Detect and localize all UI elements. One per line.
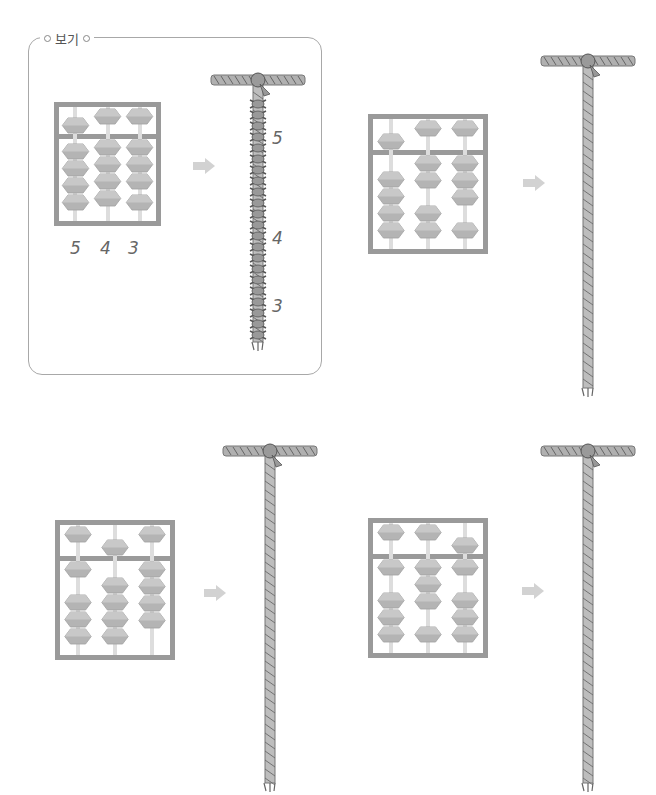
abacus-lower-bead [63,561,93,578]
abacus-lower-bead [450,592,480,609]
abacus-lower-bead [137,595,167,612]
abacus-lower-bead [413,205,443,222]
problem-2-rope[interactable] [222,443,318,795]
abacus-lower-bead [61,177,90,194]
abacus-upper-bead [450,120,480,137]
digit-label: 4 [100,238,111,258]
abacus-lower-bead [413,626,443,643]
problem-1-rope[interactable] [540,53,636,402]
abacus-upper-bead [63,526,93,543]
rope-label: 4 [272,228,283,248]
abacus-lower-bead [450,172,480,189]
abacus-lower-bead [376,626,406,643]
abacus-upper-bead [413,524,443,541]
abacus-lower-bead [450,155,480,172]
abacus-lower-bead [450,189,480,206]
abacus-lower-bead [93,139,122,156]
abacus-lower-bead [376,222,406,239]
abacus-upper-bead [100,539,130,556]
abacus-lower-bead [93,190,122,207]
abacus-lower-bead [125,139,154,156]
abacus-lower-bead [100,577,130,594]
abacus-upper-bead [450,537,480,554]
abacus-lower-bead [93,173,122,190]
problem-1-abacus [368,114,488,254]
ring-icon [44,35,51,42]
abacus-lower-bead [450,609,480,626]
example-box-label: 보기 [40,29,94,48]
abacus-lower-bead [376,592,406,609]
abacus-lower-bead [376,559,406,576]
abacus-lower-bead [376,205,406,222]
abacus-lower-bead [125,194,154,211]
abacus-upper-bead [61,117,90,134]
abacus-lower-bead [376,609,406,626]
abacus-lower-bead [413,172,443,189]
abacus-lower-bead [100,611,130,628]
abacus-upper-bead [93,108,122,125]
abacus-upper-bead [376,133,406,150]
abacus-lower-bead [376,188,406,205]
problem-3-abacus [368,518,488,658]
abacus-lower-bead [100,628,130,645]
abacus-lower-bead [450,222,480,239]
abacus-lower-bead [100,594,130,611]
knotted-rope-example [210,72,306,356]
abacus-lower-bead [93,156,122,173]
abacus-lower-bead [137,561,167,578]
ring-icon [83,35,90,42]
abacus-lower-bead [63,611,93,628]
abacus-lower-bead [450,559,480,576]
abacus-lower-bead [413,222,443,239]
abacus-lower-bead [413,593,443,610]
abacus-upper-bead [376,524,406,541]
abacus-lower-bead [376,171,406,188]
abacus-lower-bead [125,156,154,173]
abacus-lower-bead [450,626,480,643]
example-title: 보기 [55,29,79,48]
abacus-lower-bead [413,559,443,576]
abacus-upper-bead [125,108,154,125]
abacus-lower-bead [413,155,443,172]
abacus-lower-bead [137,578,167,595]
digit-label: 5 [70,238,81,258]
abacus-lower-bead [137,612,167,629]
abacus-upper-bead [137,526,167,543]
rope-label: 3 [272,296,283,316]
digit-label: 3 [128,238,139,258]
rope-label: 5 [272,128,283,148]
abacus-lower-bead [125,173,154,190]
abacus-lower-bead [61,160,90,177]
abacus-lower-bead [61,194,90,211]
abacus-lower-bead [413,576,443,593]
abacus-lower-bead [63,628,93,645]
problem-2-abacus [55,520,175,660]
instruction-text-cutoff [0,0,656,6]
example-abacus [54,102,161,226]
abacus-lower-bead [63,594,93,611]
problem-3-rope[interactable] [540,443,636,795]
abacus-upper-bead [413,120,443,137]
abacus-lower-bead [61,143,90,160]
